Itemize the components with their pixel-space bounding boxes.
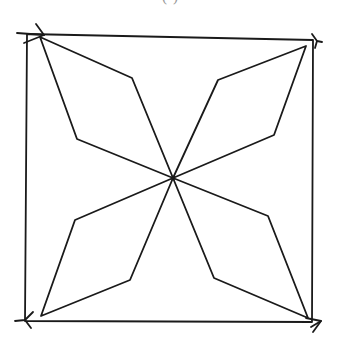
square-outline (25, 34, 313, 322)
corner-triangles (15, 24, 322, 332)
geometric-figure (0, 0, 340, 342)
corner-triangle-top-left (17, 24, 44, 35)
corner-triangle-bottom-left (15, 312, 33, 321)
top-right-petal (173, 46, 306, 178)
petals (40, 37, 308, 318)
square-border (25, 34, 313, 322)
bottom-left-petal (41, 178, 173, 316)
corner-tick-top-right (315, 41, 317, 48)
bottom-right-petal (173, 178, 308, 318)
top-left-petal (40, 37, 173, 178)
